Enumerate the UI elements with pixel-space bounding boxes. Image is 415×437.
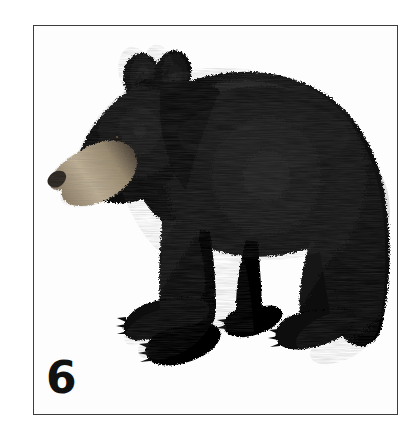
illustration-frame: 6 [33, 25, 398, 415]
page-root: 6 [0, 0, 415, 437]
bear-rump-sheen [322, 156, 390, 268]
bear-back-sheen [178, 102, 350, 170]
plate-number: 6 [46, 356, 77, 400]
black-bear-illustration [34, 26, 397, 414]
